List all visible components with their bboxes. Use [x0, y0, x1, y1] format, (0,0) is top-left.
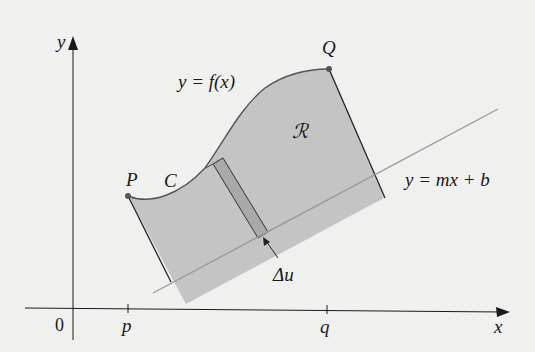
delta-u-label: Δu	[272, 264, 294, 285]
region-label: ℛ	[292, 120, 310, 142]
y-axis-arrow-icon	[68, 36, 78, 50]
line-equation-label: y = mx + b	[403, 169, 490, 190]
origin-label: 0	[55, 315, 64, 335]
y-axis-label: y	[55, 31, 66, 52]
x-axis	[25, 308, 503, 312]
tick-label-p: p	[120, 315, 132, 336]
diagram-figure: y x 0 p q y = f(x) y = mx + b ℛ C P Q Δu	[0, 0, 535, 352]
x-axis-label: x	[493, 316, 503, 337]
curve-name-label: C	[164, 170, 177, 191]
point-p-label: P	[125, 169, 138, 190]
point-q-label: Q	[322, 37, 336, 58]
point-p	[125, 193, 131, 199]
tick-label-q: q	[320, 316, 330, 337]
point-q	[326, 66, 332, 72]
curve-equation-label: y = f(x)	[176, 71, 235, 93]
